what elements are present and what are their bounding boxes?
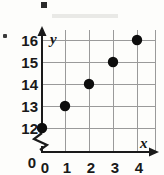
vertical-gridlines — [65, 30, 155, 152]
data-point — [37, 123, 47, 133]
y-tick-label-15: 15 — [21, 54, 38, 71]
coordinate-plane-figure: 16 15 14 13 12 0 0 1 2 3 4 y x — [0, 0, 164, 175]
data-point — [84, 79, 94, 89]
y-tick-label-0: 0 — [28, 154, 36, 171]
y-tick-label-14: 14 — [21, 76, 38, 93]
x-tick-label-1: 1 — [63, 159, 71, 175]
chart-screenshot: 16 15 14 13 12 0 0 1 2 3 4 y x — [0, 0, 164, 175]
y-axis-label: y — [48, 31, 57, 47]
y-tick-label-12: 12 — [21, 120, 38, 137]
horizontal-gridlines — [42, 40, 155, 128]
x-tick-label-3: 3 — [111, 159, 119, 175]
x-tick-label-4: 4 — [135, 159, 144, 175]
data-point — [132, 35, 142, 45]
data-point — [60, 101, 70, 111]
y-tick-label-13: 13 — [21, 98, 38, 115]
y-tick-label-16: 16 — [21, 32, 38, 49]
x-axis-label: x — [139, 135, 148, 151]
data-point — [108, 57, 118, 67]
x-tick-label-0: 0 — [41, 159, 49, 175]
x-tick-label-2: 2 — [87, 159, 95, 175]
